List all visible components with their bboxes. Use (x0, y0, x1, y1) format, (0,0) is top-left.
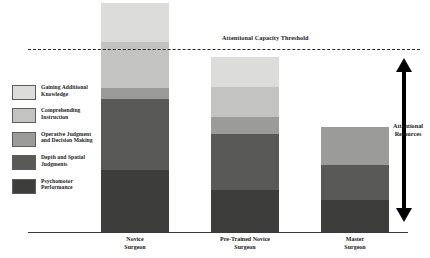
bar-segment-operative-judgment (101, 88, 169, 99)
bar-pre-trained-novice-surgeon (211, 57, 279, 232)
plot-area: Attentional Capacity Threshold Novice Su… (0, 0, 430, 258)
attentional-resources-arrow-icon (396, 58, 412, 222)
bar-master-surgeon (321, 127, 389, 232)
bar-segment-operative-judgment (211, 117, 279, 134)
bar-segment-depth-and-spatial-judgments (101, 99, 169, 170)
x-axis-label-novice-surgeon: Novice Surgeon (80, 235, 190, 251)
x-axis-label-master-surgeon: Master Surgeon (300, 235, 410, 251)
bar-segment-psychomotor-performance (211, 190, 279, 232)
bar-segment-psychomotor-performance (101, 170, 169, 232)
chart-figure: Gaining Additional Knowledge Comprehendi… (0, 0, 430, 258)
bar-segment-gaining-additional-knowledge (101, 3, 169, 42)
arrow-shaft (402, 70, 406, 210)
arrow-down-head-icon (396, 208, 412, 222)
attentional-capacity-threshold-line (28, 49, 420, 50)
bar-segment-depth-and-spatial-judgments (321, 165, 389, 200)
bar-segment-gaining-additional-knowledge (211, 57, 279, 87)
bar-segment-comprehending-instruction (211, 87, 279, 117)
bar-novice-surgeon (101, 3, 169, 232)
x-axis-line (28, 232, 408, 233)
attentional-capacity-threshold-label: Attentional Capacity Threshold (222, 34, 309, 41)
attentional-resources-label: Attentional Resources (386, 122, 430, 139)
bar-segment-operative-judgment (321, 127, 389, 165)
bar-segment-depth-and-spatial-judgments (211, 134, 279, 190)
x-axis-label-pre-trained-novice-surgeon: Pre-Trained Novice Surgeon (190, 235, 300, 251)
bar-segment-psychomotor-performance (321, 200, 389, 232)
